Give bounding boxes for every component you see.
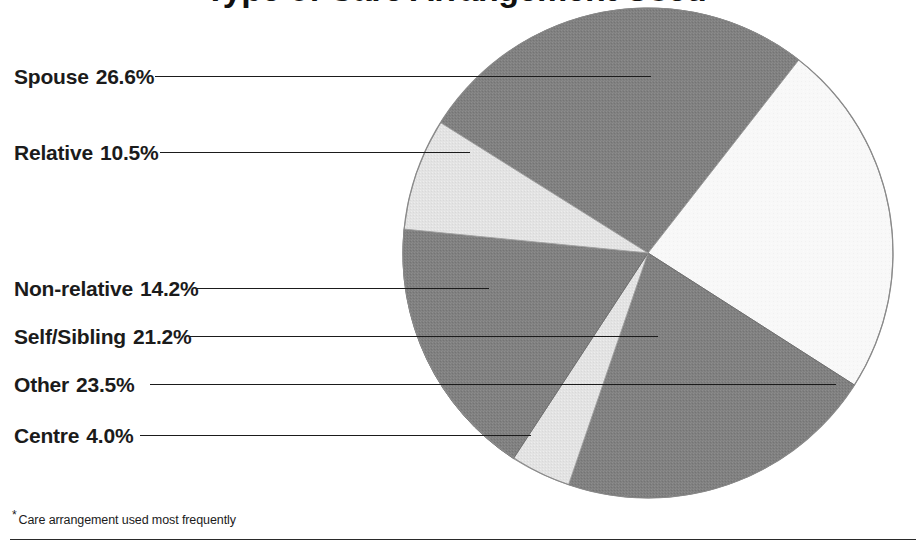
label-self-sibling-name: Self/Sibling — [14, 325, 126, 348]
footnote-text: Care arrangement used most frequently — [19, 513, 236, 527]
label-spouse-name: Spouse — [14, 65, 89, 88]
leader-line-non-relative — [196, 288, 489, 289]
leader-line-self-sibling — [190, 336, 658, 337]
label-other-name: Other — [14, 373, 69, 396]
leader-line-other — [150, 384, 836, 385]
label-relative: Relative10.5% — [14, 142, 159, 163]
label-self-sibling: Self/Sibling21.2% — [14, 326, 192, 347]
chart-figure: Type of Care Arrangement Used* — [0, 0, 924, 549]
footnote: *Care arrangement used most frequently — [12, 508, 236, 527]
label-centre-value: 4.0% — [86, 424, 133, 447]
label-other: Other23.5% — [14, 374, 135, 395]
leader-line-relative — [160, 152, 470, 153]
label-spouse: Spouse26.6% — [14, 66, 154, 87]
label-spouse-value: 26.6% — [96, 65, 155, 88]
bottom-divider — [10, 539, 916, 540]
footnote-marker: * — [12, 508, 17, 522]
label-non-relative: Non-relative14.2% — [14, 278, 199, 299]
label-non-relative-name: Non-relative — [14, 277, 133, 300]
label-self-sibling-value: 21.2% — [133, 325, 192, 348]
label-relative-value: 10.5% — [100, 141, 159, 164]
label-relative-name: Relative — [14, 141, 93, 164]
label-centre-name: Centre — [14, 424, 79, 447]
label-other-value: 23.5% — [76, 373, 135, 396]
leader-line-spouse — [155, 76, 651, 77]
leader-line-centre — [140, 435, 531, 436]
label-non-relative-value: 14.2% — [140, 277, 199, 300]
label-centre: Centre4.0% — [14, 425, 133, 446]
